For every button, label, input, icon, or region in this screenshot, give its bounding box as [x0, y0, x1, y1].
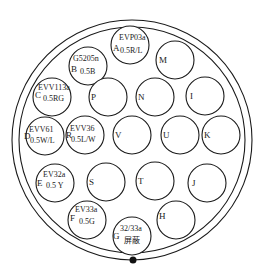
pin-t-letter: T: [138, 176, 144, 186]
pin-i: I: [186, 77, 224, 115]
pin-u-letter: U: [163, 130, 170, 140]
pin-b-letter: B: [71, 64, 77, 74]
pin-n-letter: N: [138, 92, 145, 102]
pin-c-code: EVV113a: [38, 83, 70, 92]
pin-u: U: [161, 116, 199, 154]
pin-e-letter: E: [37, 178, 43, 188]
pin-r-code: EVV36: [70, 124, 94, 133]
pin-f-wire: 0.5G: [79, 217, 95, 226]
pin-c-wire: 0.5RG: [43, 94, 64, 103]
pin-s-letter: S: [89, 177, 94, 187]
pin-d-code: EVV61: [29, 125, 53, 134]
pin-v-letter: V: [115, 130, 122, 140]
pin-a-letter: A: [113, 43, 120, 53]
pin-e: EV32a E 0.5 Y: [36, 164, 74, 202]
pin-d: EVV61 D 0.5W/L: [24, 117, 64, 155]
pin-c: EVV113a C 0.5RG: [33, 78, 71, 116]
pin-p-letter: P: [91, 92, 96, 102]
pin-r: EVV36 R 0.5L/W: [66, 116, 104, 154]
pin-d-wire: 0.5W/L: [30, 136, 55, 145]
pin-s: S: [87, 163, 125, 201]
pin-k-letter: K: [204, 130, 211, 140]
pin-f-letter: F: [70, 213, 75, 223]
pin-p: P: [89, 78, 127, 116]
pin-j-letter: J: [192, 178, 196, 188]
pin-m-letter: M: [159, 55, 167, 65]
pin-e-code: EV32a: [43, 170, 66, 179]
pin-a: EVP03a A 0.5R/L: [111, 26, 149, 64]
key-dot-icon: [130, 257, 137, 264]
pin-h-letter: H: [159, 211, 166, 221]
pin-m: M: [156, 41, 194, 79]
pin-t: T: [136, 162, 174, 200]
pin-c-letter: C: [35, 90, 41, 100]
pin-i-letter: I: [190, 91, 193, 101]
pin-n: N: [136, 78, 174, 116]
pin-b-code: G5205n: [73, 54, 99, 63]
pin-e-wire: 0.5 Y: [46, 181, 64, 190]
pin-g-code: 32/33a: [120, 224, 142, 233]
pin-b-wire: 0.5B: [80, 67, 95, 76]
pin-a-code: EVP03a: [119, 33, 146, 42]
pin-h: H: [157, 201, 195, 239]
pin-g-letter: G: [113, 231, 120, 241]
pin-j: J: [188, 164, 226, 202]
pin-g-wire: 屏蔽: [124, 235, 140, 245]
pin-g: 32/33a G 屏蔽: [113, 217, 151, 255]
pin-k: K: [202, 116, 240, 154]
pin-r-wire: 0.5L/W: [71, 135, 96, 144]
pin-f-code: EV33a: [75, 205, 98, 214]
pin-v: V: [113, 116, 151, 154]
connector-diagram: EVP03a A 0.5R/L G5205n B 0.5B M EVV113a …: [0, 0, 260, 279]
pin-a-wire: 0.5R/L: [120, 46, 143, 55]
pin-f: EV33a F 0.5G: [68, 201, 106, 239]
